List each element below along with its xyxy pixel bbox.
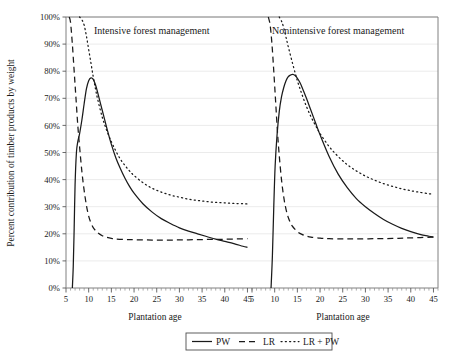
x-tick-label: 20 bbox=[316, 294, 325, 304]
legend-label-lr-pw: LR + PW bbox=[303, 337, 339, 347]
legend: PW LR LR + PW bbox=[186, 333, 339, 350]
panel-title-intensive: Intensive forest management bbox=[94, 25, 210, 36]
y-tick-label: 80% bbox=[44, 66, 60, 76]
x-tick-label: 5 bbox=[250, 294, 254, 304]
x-tick-label: 40 bbox=[406, 294, 415, 304]
chart-figure: 0%10%20%30%40%50%60%70%80%90%100% 510152… bbox=[0, 0, 455, 360]
x-tick-label: 10 bbox=[270, 294, 279, 304]
x-tick-label: 35 bbox=[198, 294, 207, 304]
x-tick-label: 15 bbox=[107, 294, 116, 304]
y-tick-label: 40% bbox=[44, 175, 60, 185]
x-tick-label: 25 bbox=[338, 294, 347, 304]
y-tick-label: 20% bbox=[44, 229, 60, 239]
x-tick-label: 20 bbox=[130, 294, 139, 304]
x-tick-label: 5 bbox=[64, 294, 68, 304]
x-tick-label: 30 bbox=[361, 294, 370, 304]
x-axis-label-left: Plantation age bbox=[128, 312, 181, 322]
x-tick-label: 15 bbox=[293, 294, 302, 304]
y-tick-label: 10% bbox=[44, 256, 60, 266]
x-tick-label: 35 bbox=[384, 294, 393, 304]
legend-label-lr: LR bbox=[263, 337, 276, 347]
y-tick-label: 100% bbox=[40, 12, 60, 22]
x-tick-label: 25 bbox=[152, 294, 161, 304]
x-tick-label: 30 bbox=[175, 294, 184, 304]
chart-canvas: 0%10%20%30%40%50%60%70%80%90%100% 510152… bbox=[0, 0, 455, 360]
x-tick-label: 10 bbox=[84, 294, 93, 304]
y-tick-label: 0% bbox=[49, 283, 60, 293]
y-tick-label: 30% bbox=[44, 202, 60, 212]
y-tick-label: 60% bbox=[44, 121, 60, 131]
panel-title-nonintensive: Nonintensive forest management bbox=[272, 25, 404, 36]
y-tick-label: 70% bbox=[44, 93, 60, 103]
y-tick-label: 90% bbox=[44, 39, 60, 49]
x-tick-label: 45 bbox=[429, 294, 438, 304]
x-axis-label-right: Plantation age bbox=[316, 312, 369, 322]
y-tick-label: 50% bbox=[44, 148, 60, 158]
y-axis-label: Percent contribution of timber products … bbox=[6, 59, 16, 247]
x-tick-label: 40 bbox=[220, 294, 229, 304]
legend-label-pw: PW bbox=[216, 337, 230, 347]
